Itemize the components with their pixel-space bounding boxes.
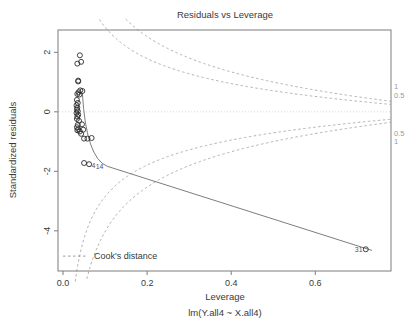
point-label-31: 31	[355, 246, 363, 253]
chart-title: Residuals vs Leverage	[177, 9, 273, 20]
cooks-contour-0.5	[99, 19, 390, 104]
y-tick-label: 2	[42, 50, 52, 55]
x-axis-label: Leverage	[205, 291, 245, 302]
contour-labels: 10.50.51	[394, 82, 404, 146]
plot-frame	[58, 30, 391, 271]
trend-line	[82, 93, 372, 250]
residual-trend-line	[82, 93, 372, 250]
y-tick-label: 0	[42, 109, 52, 114]
plot-border	[58, 30, 391, 271]
y-tick-label: -2	[42, 167, 52, 175]
chart-canvas: 0.00.20.40.620-2-4 31414 10.50.51 Cook's…	[0, 0, 414, 332]
data-point	[77, 53, 82, 58]
cooks-distance-contours	[75, 19, 390, 281]
data-point	[82, 161, 87, 166]
contour-label-upper-0.5: 0.5	[394, 91, 404, 100]
x-tick-label: 0.0	[57, 278, 70, 288]
data-points	[74, 53, 368, 252]
legend-label: Cook's distance	[94, 251, 157, 261]
cooks-distance-legend: Cook's distance	[63, 251, 157, 261]
x-tick-label: 0.4	[225, 278, 238, 288]
contour-label-lower-1: 1	[394, 137, 398, 146]
x-tick-label: 0.2	[141, 278, 154, 288]
residuals-vs-leverage-chart: 0.00.20.40.620-2-4 31414 10.50.51 Cook's…	[0, 0, 414, 332]
x-tick-label: 0.6	[309, 278, 322, 288]
cooks-contour-1	[126, 19, 391, 101]
model-formula-label: lm(Y.all4 ~ X.all4)	[188, 307, 261, 318]
contour-label-upper-1: 1	[394, 82, 398, 91]
point-labels: 31414	[92, 162, 363, 253]
y-tick-label: -4	[42, 227, 52, 235]
point-label-14: 14	[96, 163, 104, 170]
y-axis-label: Standardized residuals	[7, 101, 18, 198]
